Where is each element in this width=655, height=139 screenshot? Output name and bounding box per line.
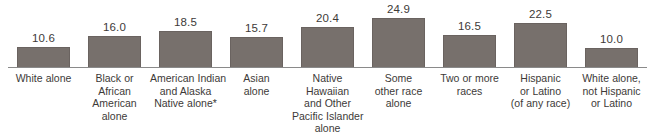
bar-value-label: 16.5 bbox=[458, 20, 481, 33]
bar-value-label: 10.6 bbox=[32, 32, 55, 45]
category-label-line: American bbox=[79, 97, 150, 110]
bar bbox=[372, 18, 425, 68]
category-label-line: alone bbox=[363, 97, 434, 110]
category-label-line: and Alaska bbox=[150, 85, 221, 98]
category-label-line: Hispanic bbox=[505, 72, 576, 85]
category-label: Black orAfricanAmericanalone bbox=[79, 70, 150, 122]
category-label-line: other race bbox=[363, 85, 434, 98]
bar-group: 10.6 bbox=[8, 0, 79, 68]
bar-value-label: 24.9 bbox=[387, 3, 410, 16]
category-label: Asianalone bbox=[221, 70, 292, 97]
category-label: White alone bbox=[8, 70, 79, 85]
category-label-line: or Latino bbox=[576, 97, 647, 110]
category-label: Someother racealone bbox=[363, 70, 434, 110]
category-label-line: races bbox=[434, 85, 505, 98]
category-axis-labels: White alone Black orAfricanAmericanalone… bbox=[0, 70, 655, 139]
category-label-line: alone bbox=[292, 122, 363, 135]
bar-group: 20.4 bbox=[292, 0, 363, 68]
category-label: Hispanicor Latino(of any race) bbox=[505, 70, 576, 110]
category-label: White alone,not Hispanicor Latino bbox=[576, 70, 647, 110]
category-label-line: White alone bbox=[8, 72, 79, 85]
plot-area: 10.6 16.0 18.5 15.7 20.4 24.9 16.5 bbox=[0, 0, 655, 68]
bar-group: 18.5 bbox=[150, 0, 221, 68]
bar bbox=[443, 35, 496, 68]
bar-value-label: 15.7 bbox=[245, 22, 268, 35]
bar-group: 24.9 bbox=[363, 0, 434, 68]
bar bbox=[159, 31, 212, 68]
bar-chart: 10.6 16.0 18.5 15.7 20.4 24.9 16.5 bbox=[0, 0, 655, 139]
category-label-line: Pacific Islander bbox=[292, 110, 363, 123]
bar-value-label: 22.5 bbox=[529, 8, 552, 21]
category-label-line: American Indian bbox=[150, 72, 221, 85]
bar-value-label: 18.5 bbox=[174, 16, 197, 29]
bar bbox=[17, 47, 70, 68]
category-label: Two or moreraces bbox=[434, 70, 505, 97]
bar bbox=[230, 37, 283, 68]
category-label-line: Hawaiian bbox=[292, 85, 363, 98]
bar bbox=[514, 23, 567, 68]
category-label-line: Native bbox=[292, 72, 363, 85]
bar-group: 16.0 bbox=[79, 0, 150, 68]
category-label-line: Some bbox=[363, 72, 434, 85]
category-label-line: alone bbox=[221, 85, 292, 98]
bar-group: 22.5 bbox=[505, 0, 576, 68]
category-label-line: (of any race) bbox=[505, 97, 576, 110]
category-label-line: White alone, bbox=[576, 72, 647, 85]
bar bbox=[585, 48, 638, 68]
category-label: NativeHawaiianand OtherPacific Islandera… bbox=[292, 70, 363, 135]
bar-group: 16.5 bbox=[434, 0, 505, 68]
bar-value-label: 20.4 bbox=[316, 12, 339, 25]
category-label-line: African bbox=[79, 85, 150, 98]
bar-group: 15.7 bbox=[221, 0, 292, 68]
category-label-line: and Other bbox=[292, 97, 363, 110]
bar bbox=[88, 36, 141, 68]
category-label-line: not Hispanic bbox=[576, 85, 647, 98]
category-label-line: Black or bbox=[79, 72, 150, 85]
bar-value-label: 10.0 bbox=[600, 33, 623, 46]
category-label: American Indianand AlaskaNative alone* bbox=[150, 70, 221, 110]
category-label-line: Asian bbox=[221, 72, 292, 85]
category-label-line: Two or more bbox=[434, 72, 505, 85]
bar-group: 10.0 bbox=[576, 0, 647, 68]
category-label-line: alone bbox=[79, 110, 150, 123]
category-label-line: or Latino bbox=[505, 85, 576, 98]
category-label-line: Native alone* bbox=[150, 97, 221, 110]
x-axis-baseline bbox=[8, 67, 647, 68]
bar bbox=[301, 27, 354, 68]
bar-value-label: 16.0 bbox=[103, 21, 126, 34]
